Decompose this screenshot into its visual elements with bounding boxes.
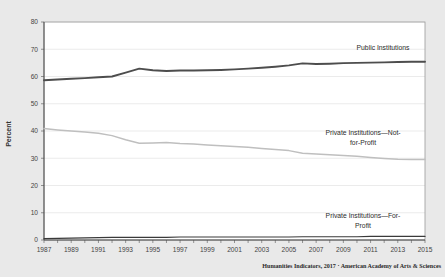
x-tick-label: 1997 (173, 246, 188, 253)
x-tick-label: 2009 (336, 246, 351, 253)
x-tick-label: 2003 (254, 246, 269, 253)
y-tick-label: 10 (31, 209, 39, 216)
x-tick-label: 2013 (390, 246, 405, 253)
y-tick-label: 0 (34, 236, 38, 243)
series-label-for-profit-line1: Private Institutions—For- (326, 212, 401, 219)
x-tick-label: 1993 (118, 246, 133, 253)
x-tick-label: 2005 (282, 246, 297, 253)
y-tick-label: 40 (31, 127, 39, 134)
series-label-not-for-profit-line2: for-Profit (350, 139, 376, 146)
chart-figure: 01020304050607080 1987198919911993199519… (0, 0, 445, 277)
y-tick-label: 30 (31, 155, 39, 162)
y-axis-title: Percent (5, 120, 12, 146)
y-tick-label: 60 (31, 73, 39, 80)
x-tick-label: 1991 (91, 246, 106, 253)
credit-line: Humanities Indicators, 2017 · American A… (262, 263, 441, 269)
line-chart: 01020304050607080 1987198919911993199519… (0, 0, 445, 277)
series-label-for-profit-line2: Profit (355, 222, 371, 229)
x-tick-label: 1999 (200, 246, 215, 253)
x-tick-label: 2001 (227, 246, 242, 253)
y-tick-label: 20 (31, 182, 39, 189)
y-tick-label: 80 (31, 18, 39, 25)
x-tick-label: 1989 (64, 246, 79, 253)
y-tick-label: 70 (31, 46, 39, 53)
x-tick-label: 2007 (309, 246, 324, 253)
y-tick-label: 50 (31, 100, 39, 107)
series-label-public: Public Institutions (357, 44, 410, 51)
x-tick-label: 2011 (363, 246, 378, 253)
x-tick-label: 1995 (146, 246, 161, 253)
x-tick-label: 1987 (37, 246, 52, 253)
series-label-not-for-profit-line1: Private Institutions—Not- (325, 129, 400, 136)
x-tick-label: 2015 (418, 246, 433, 253)
